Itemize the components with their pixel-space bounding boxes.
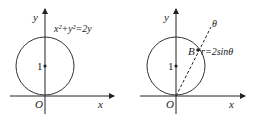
point-b xyxy=(196,48,200,52)
figure-2: y x O 1 θ B r=2sinθ xyxy=(140,9,245,114)
center-point xyxy=(43,64,46,67)
figure-1: y x O 1 x²+y²=2y xyxy=(10,9,114,114)
center-point xyxy=(174,64,177,67)
theta-label: θ xyxy=(212,18,217,29)
origin-label: O xyxy=(166,98,174,110)
x-axis-label: x xyxy=(228,98,234,110)
diagram-canvas: y x O 1 x²+y²=2y y x O 1 θ B r=2sinθ xyxy=(0,0,254,123)
y-axis-label: y xyxy=(32,11,38,23)
y-axis-label: y xyxy=(163,11,169,23)
equation-label: x²+y²=2y xyxy=(53,23,92,34)
equation-label: r=2sinθ xyxy=(201,46,233,57)
origin-label: O xyxy=(35,98,43,110)
point-b-label: B xyxy=(188,45,195,57)
tick-label-1: 1 xyxy=(168,60,174,72)
x-axis-label: x xyxy=(97,98,103,110)
tick-label-1: 1 xyxy=(37,60,43,72)
